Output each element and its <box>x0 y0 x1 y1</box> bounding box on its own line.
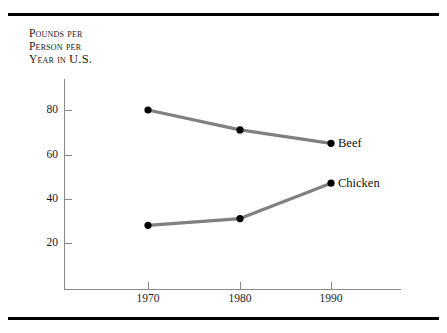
y-tick-label-20: 20 <box>30 236 58 248</box>
y-tick-mark-40 <box>65 199 72 200</box>
series-chicken <box>144 180 334 229</box>
chicken-markers <box>144 180 334 229</box>
plot-area: 80 60 40 20 1970 1980 1990 Beef Chicken <box>0 0 447 333</box>
chicken-line <box>148 183 331 225</box>
series-beef <box>144 106 334 146</box>
data-point <box>236 215 243 222</box>
y-tick-mark-20 <box>65 243 72 244</box>
y-tick-mark-80 <box>65 110 72 111</box>
y-tick-label-80: 80 <box>30 103 58 115</box>
data-point <box>144 222 151 229</box>
x-tick-label-1970: 1970 <box>126 292 170 304</box>
data-point <box>327 140 334 147</box>
chart-page: Pounds per Person per Year in U.S. 80 60… <box>0 0 447 333</box>
data-point <box>144 106 151 113</box>
series-canvas <box>0 0 447 333</box>
beef-line <box>148 110 331 143</box>
series-label-chicken: Chicken <box>338 176 380 191</box>
beef-markers <box>144 106 334 146</box>
x-tick-mark-1980 <box>240 282 241 289</box>
x-tick-label-1990: 1990 <box>309 292 353 304</box>
data-point <box>236 126 243 133</box>
y-tick-mark-60 <box>65 155 72 156</box>
x-tick-label-1980: 1980 <box>218 292 262 304</box>
x-tick-mark-1990 <box>331 282 332 289</box>
x-tick-mark-1970 <box>148 282 149 289</box>
data-point <box>327 180 334 187</box>
y-tick-label-40: 40 <box>30 192 58 204</box>
x-axis-line <box>64 289 401 290</box>
series-label-beef: Beef <box>338 136 362 151</box>
y-tick-label-60: 60 <box>30 148 58 160</box>
